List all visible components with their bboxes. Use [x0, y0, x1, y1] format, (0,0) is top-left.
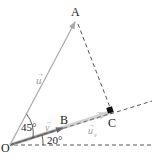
svg-text:v: v	[94, 132, 97, 138]
svg-text:→: →	[88, 121, 95, 129]
point-label-a: A	[71, 5, 80, 19]
point-label-o: O	[1, 141, 10, 155]
point-label-b: B	[60, 113, 68, 127]
angle-label-45: 45°	[21, 121, 36, 133]
perpendicular-dashed-line	[78, 24, 111, 110]
point-label-c: C	[108, 116, 116, 130]
vector-projection-diagram: A B C O 45° 20° u → v → u v →	[0, 0, 154, 161]
svg-text:→: →	[45, 118, 52, 126]
vector-label-u-v: u v →	[88, 121, 97, 138]
svg-text:→: →	[36, 69, 44, 78]
angle-label-20: 20°	[47, 134, 62, 146]
angle-arc-20	[42, 135, 43, 145]
